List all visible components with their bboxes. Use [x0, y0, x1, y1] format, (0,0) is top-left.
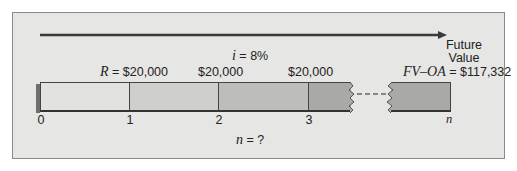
payment-label-3: $20,000 — [288, 65, 333, 79]
period-3: 3 — [306, 113, 313, 127]
period-0: 0 — [38, 113, 45, 127]
payment-var: R — [100, 64, 109, 79]
payment-value-2: $20,000 — [198, 65, 243, 79]
fv-oa-var: FV–OA — [403, 64, 446, 79]
n-var: n — [236, 132, 243, 147]
period-1: 1 — [127, 113, 134, 127]
interest-rate-label: i = 8% — [232, 49, 268, 63]
payment-label-2: $20,000 — [198, 65, 243, 79]
value-text: Value — [448, 51, 479, 65]
payment-value-1: = $20,000 — [109, 65, 168, 79]
future-value-heading-2: Value — [436, 51, 492, 65]
periods-question: n = ? — [236, 133, 264, 147]
fv-oa-value: = $117,332 — [446, 65, 511, 79]
payment-label-1: R = $20,000 — [100, 65, 168, 79]
period-n: n — [446, 112, 452, 127]
future-text: Future — [446, 38, 482, 52]
future-value-amount: FV–OA = $117,332 — [403, 65, 511, 79]
payment-value-3: $20,000 — [288, 65, 333, 79]
n-value: = ? — [243, 133, 264, 147]
future-value-heading-1: Future — [436, 38, 492, 52]
interest-value: = 8% — [236, 49, 268, 63]
period-2: 2 — [216, 113, 223, 127]
